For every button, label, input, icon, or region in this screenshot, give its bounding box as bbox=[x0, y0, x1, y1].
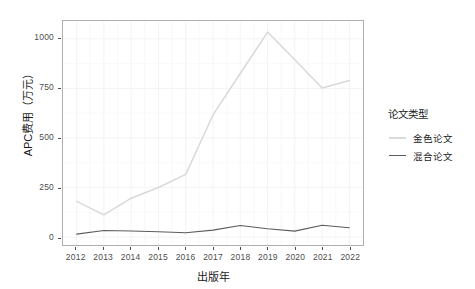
y-tick-mark bbox=[58, 238, 61, 239]
y-tick-label: 0 bbox=[0, 232, 54, 242]
x-tick-mark bbox=[350, 247, 351, 250]
chart-root: 02505007501000 2012201320142015201620172… bbox=[0, 0, 475, 289]
series-line-0 bbox=[77, 32, 350, 215]
y-tick-mark bbox=[58, 188, 61, 189]
legend-items: 金色论文混合论文 bbox=[388, 130, 472, 164]
y-tick-mark bbox=[58, 138, 61, 139]
y-tick-mark bbox=[58, 38, 61, 39]
x-tick-mark bbox=[240, 247, 241, 250]
legend-label: 混合论文 bbox=[413, 149, 453, 163]
x-tick-label: 2022 bbox=[334, 252, 366, 262]
legend-item-0[interactable]: 金色论文 bbox=[388, 130, 472, 146]
series-layer bbox=[63, 21, 363, 245]
x-tick-mark bbox=[103, 247, 104, 250]
legend-label: 金色论文 bbox=[413, 131, 453, 145]
x-tick-mark bbox=[295, 247, 296, 250]
y-axis-title: APC费用（万元） bbox=[19, 32, 35, 192]
x-tick-mark bbox=[130, 247, 131, 250]
y-tick-mark bbox=[58, 88, 61, 89]
x-tick-mark bbox=[322, 247, 323, 250]
x-tick-mark bbox=[185, 247, 186, 250]
legend-key-icon bbox=[388, 149, 407, 163]
x-tick-mark bbox=[213, 247, 214, 250]
series-line-1 bbox=[77, 225, 350, 234]
x-tick-mark bbox=[75, 247, 76, 250]
x-tick-mark bbox=[158, 247, 159, 250]
legend-key-icon bbox=[388, 131, 407, 145]
legend: 论文类型 金色论文混合论文 bbox=[388, 106, 472, 166]
x-axis-title: 出版年 bbox=[62, 268, 364, 284]
legend-title: 论文类型 bbox=[388, 106, 472, 121]
x-tick-mark bbox=[267, 247, 268, 250]
plot-panel bbox=[62, 20, 364, 246]
legend-item-1[interactable]: 混合论文 bbox=[388, 148, 472, 164]
